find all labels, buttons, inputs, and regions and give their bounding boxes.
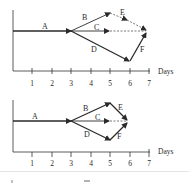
activity-label-b: B — [82, 13, 87, 22]
tick-label: 7 — [147, 79, 151, 88]
activity-label-f: F — [140, 45, 145, 54]
tick-label: 3 — [69, 79, 73, 88]
activity-label-c: C — [95, 113, 100, 122]
x-axis-label: Days — [158, 147, 173, 156]
activity-network-diagrams: 1 2 3 4 5 6 7 Days A B C D E F — [0, 0, 189, 183]
activity-e-slack — [127, 20, 146, 30]
tick-label: 7 — [147, 159, 151, 168]
tick-label: 4 — [89, 79, 93, 88]
tick-label: 1 — [30, 79, 34, 88]
tick-label: 2 — [50, 79, 54, 88]
activity-label-f: F — [117, 132, 122, 141]
activity-label-a: A — [32, 112, 38, 121]
tick-label: 5 — [108, 159, 112, 168]
activity-label-d: D — [84, 130, 90, 139]
activity-label-e: E — [120, 8, 125, 17]
tick-label: 4 — [89, 159, 93, 168]
activity-d-arrow — [71, 31, 129, 61]
x-axis-ticks — [32, 149, 149, 157]
activity-d-arrow — [71, 121, 110, 140]
activity-label-a: A — [42, 22, 48, 31]
x-axis-label: Days — [158, 67, 173, 76]
tick-label: 1 — [30, 159, 34, 168]
activity-label-e: E — [118, 103, 123, 112]
tick-label: 6 — [128, 159, 132, 168]
diagram-bottom: 1 2 3 4 5 6 7 Days A B C D E F — [13, 100, 173, 168]
tick-label: 3 — [69, 159, 73, 168]
tick-label: 6 — [128, 79, 132, 88]
tick-label: 5 — [108, 79, 112, 88]
activity-label-d: D — [91, 45, 97, 54]
activity-b-arrow — [71, 13, 110, 31]
activity-b-arrow — [71, 103, 110, 121]
activity-label-b: B — [83, 104, 88, 113]
tick-label: 2 — [50, 159, 54, 168]
diagram-top: 1 2 3 4 5 6 7 Days A B C D E F — [13, 8, 173, 88]
activity-label-c: C — [94, 23, 99, 32]
